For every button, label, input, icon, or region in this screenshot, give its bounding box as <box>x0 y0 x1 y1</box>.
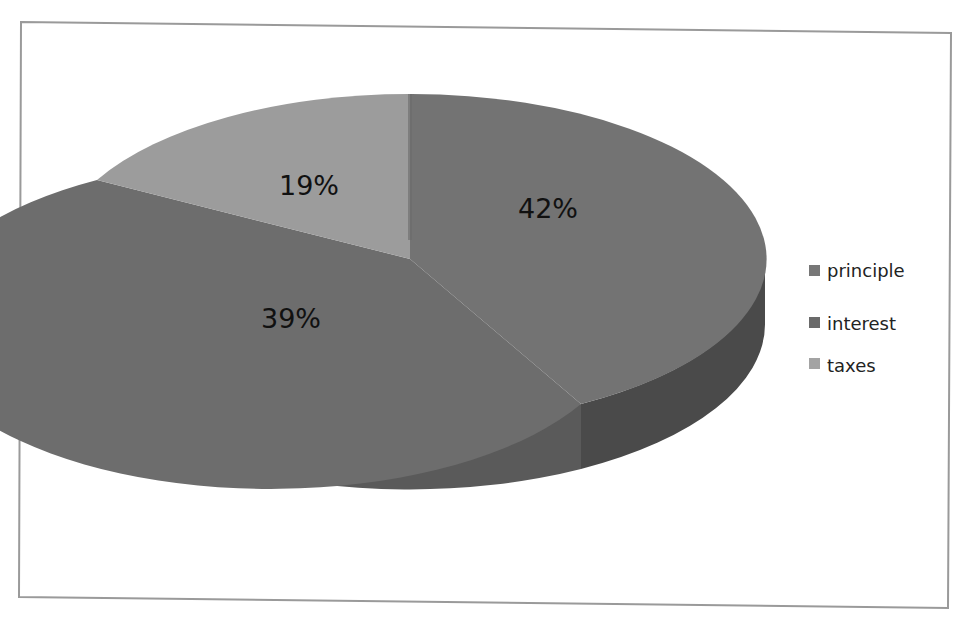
pie-cut-face <box>408 94 412 240</box>
chart-frame: 19% 42% 39% principle interest taxes <box>0 0 968 628</box>
legend-label-taxes: taxes <box>827 355 876 376</box>
legend-label-principle: principle <box>827 260 905 281</box>
legend-swatch-interest <box>809 317 820 328</box>
legend-label-interest: interest <box>827 313 896 334</box>
data-label-interest: 39% <box>261 303 321 334</box>
data-label-principle: 42% <box>518 193 578 224</box>
legend-swatch-principle <box>809 265 820 276</box>
data-label-taxes: 19% <box>279 170 339 201</box>
legend-swatch-taxes <box>809 358 820 369</box>
